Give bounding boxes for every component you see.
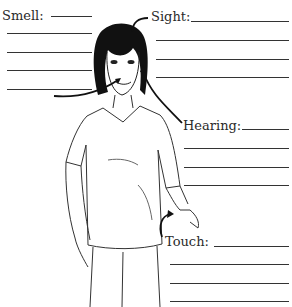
left-eye-icon — [111, 60, 118, 64]
hearing-arrow-icon — [143, 72, 182, 123]
touch-answer-line[interactable] — [214, 246, 289, 247]
hearing-answer-line[interactable] — [184, 167, 289, 168]
person-illustration — [0, 0, 292, 307]
smell-label: Smell: — [2, 9, 44, 23]
hearing-answer-line[interactable] — [184, 148, 289, 149]
sight-answer-line[interactable] — [156, 59, 289, 60]
sight-answer-line[interactable] — [156, 40, 289, 41]
face — [107, 52, 139, 95]
smell-answer-line[interactable] — [7, 89, 92, 90]
hearing-answer-line[interactable] — [184, 185, 289, 186]
smell-answer-line[interactable] — [7, 70, 92, 71]
touch-answer-line[interactable] — [170, 283, 289, 284]
smell-answer-line[interactable] — [7, 33, 92, 34]
sight-label: Sight: — [151, 10, 190, 24]
smell-answer-line[interactable] — [7, 52, 92, 53]
hearing-answer-line[interactable] — [242, 129, 289, 130]
right-eye-icon — [128, 60, 135, 64]
touch-answer-line[interactable] — [170, 301, 289, 302]
shirt — [66, 106, 180, 249]
touch-label: Touch: — [165, 235, 209, 249]
sight-answer-line[interactable] — [191, 21, 289, 22]
touch-answer-line[interactable] — [170, 264, 289, 265]
sight-answer-line[interactable] — [156, 77, 289, 78]
hearing-label: Hearing: — [183, 119, 241, 133]
smell-answer-line[interactable] — [51, 16, 92, 17]
